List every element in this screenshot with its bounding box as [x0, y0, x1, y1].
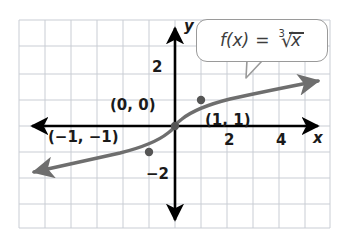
x-tick-label-2: 2	[224, 133, 234, 148]
cube-root-radical: 3 √ x	[276, 31, 305, 50]
point-label-neg-one: (−1, −1)	[48, 130, 119, 145]
point-label-origin: (0, 0)	[110, 98, 156, 113]
point-label-one-one: (1, 1)	[205, 113, 251, 128]
graph-figure: f(x) = 3 √ x y x 2 −2 2 4 (0, 0) (1, 1) …	[0, 0, 350, 237]
radicand: x	[291, 32, 301, 49]
radical-index: 3	[279, 29, 285, 39]
y-axis-label: y	[184, 19, 194, 34]
formula-expression: f(x) = 3 √ x	[220, 31, 304, 50]
point-marker-one-one	[197, 96, 205, 104]
equals-sign: =	[255, 32, 269, 49]
formula-callout: f(x) = 3 √ x	[196, 19, 328, 62]
y-tick-label-2: 2	[152, 60, 162, 75]
x-tick-label-4: 4	[276, 133, 286, 148]
point-marker-neg-one	[145, 148, 153, 156]
point-marker-origin	[171, 122, 179, 130]
y-tick-label-neg2: −2	[146, 167, 169, 182]
x-axis-label: x	[313, 131, 323, 146]
function-name: f(x)	[220, 32, 249, 49]
